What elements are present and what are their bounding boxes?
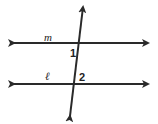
label-m: m	[44, 31, 52, 43]
transversal	[70, 7, 83, 116]
label-l: ℓ	[45, 70, 50, 82]
angle-2-label: 2	[79, 71, 85, 83]
angle-1-label: 1	[70, 47, 76, 59]
parallel-lines-diagram: m 1 ℓ 2	[0, 0, 158, 124]
